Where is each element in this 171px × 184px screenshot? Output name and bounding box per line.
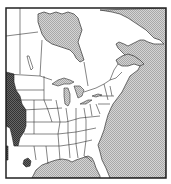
lake-michigan [64, 88, 70, 106]
range-map [0, 0, 171, 184]
